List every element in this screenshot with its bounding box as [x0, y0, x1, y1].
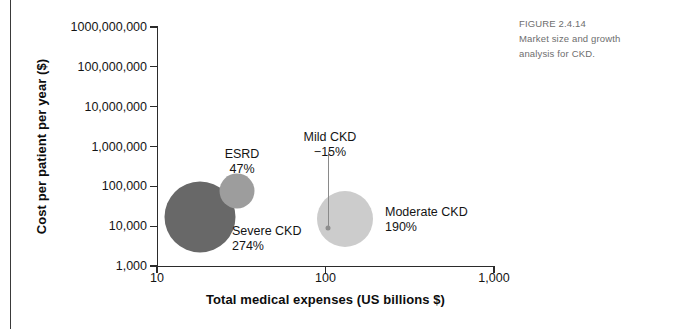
data-label-growth: 47%: [225, 162, 260, 177]
x-tick-label: 100: [315, 271, 336, 285]
bubble-moderate-ckd[interactable]: [317, 191, 373, 247]
y-tick: [150, 66, 157, 67]
bubble-chart: 1,00010,000100,0001,000,00010,000,000100…: [0, 0, 520, 329]
caption-line-1: Market size and growth: [519, 31, 669, 46]
data-label-moderate-ckd: Moderate CKD190%: [385, 205, 468, 234]
y-tick-label: 1,000: [0, 259, 147, 273]
caption-line-2: analysis for CKD.: [519, 46, 669, 61]
data-label-growth: 274%: [232, 239, 301, 254]
y-tick: [150, 26, 157, 27]
y-tick-label: 100,000: [0, 179, 147, 193]
x-tick-label: 1,000: [478, 271, 509, 285]
data-label-name: Mild CKD: [304, 130, 357, 145]
y-tick: [150, 106, 157, 107]
y-tick-label: 10,000,000: [0, 100, 147, 114]
y-tick: [150, 226, 157, 227]
x-axis-title: Total medical expenses (US billions $): [157, 292, 494, 307]
data-label-esrd: ESRD47%: [225, 147, 260, 176]
y-tick: [150, 146, 157, 147]
figure-page: 1,00010,000100,0001,000,00010,000,000100…: [0, 0, 683, 329]
data-label-growth: 190%: [385, 220, 468, 235]
figure-number: FIGURE 2.4.14: [519, 16, 669, 31]
y-tick-label: 1,000,000: [0, 140, 147, 154]
bubble-esrd[interactable]: [220, 173, 255, 208]
figure-caption: FIGURE 2.4.14 Market size and growth ana…: [519, 16, 669, 61]
mild-ckd-leader-line: [328, 152, 329, 228]
data-label-name: ESRD: [225, 147, 260, 162]
bubble-mild-ckd[interactable]: [325, 225, 330, 230]
data-label-severe-ckd: Severe CKD274%: [232, 224, 301, 253]
y-tick-label: 1000,000,000: [0, 20, 147, 34]
data-label-name: Severe CKD: [232, 224, 301, 239]
x-tick-label: 10: [150, 271, 164, 285]
data-label-mild-ckd: Mild CKD−15%: [304, 130, 357, 159]
y-axis-line: [157, 26, 158, 267]
data-label-name: Moderate CKD: [385, 205, 468, 220]
y-axis-title: Cost per patient per year ($): [34, 26, 54, 267]
y-tick-label: 100,000,000: [0, 60, 147, 74]
data-label-growth: −15%: [304, 145, 357, 160]
y-tick-label: 10,000: [0, 219, 147, 233]
y-tick: [150, 186, 157, 187]
